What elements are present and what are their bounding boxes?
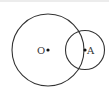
point-O [46, 48, 49, 51]
label-O: O [37, 45, 45, 56]
geometry-diagram: O A [0, 0, 109, 90]
label-A: A [86, 45, 95, 56]
